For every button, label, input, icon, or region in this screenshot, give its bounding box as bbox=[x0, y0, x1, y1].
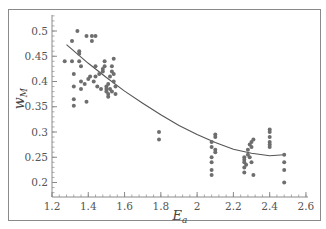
data-point bbox=[108, 75, 112, 79]
data-point bbox=[213, 135, 217, 139]
data-point bbox=[106, 95, 110, 99]
data-point bbox=[94, 64, 98, 68]
data-point bbox=[85, 100, 89, 104]
data-point bbox=[112, 72, 116, 76]
data-point bbox=[210, 160, 214, 164]
data-point bbox=[79, 64, 83, 68]
y-tick-label: 0.45 bbox=[25, 50, 48, 62]
y-tick-label: 0.3 bbox=[31, 126, 48, 138]
data-point bbox=[92, 80, 96, 84]
y-tick-label: 0.5 bbox=[31, 25, 48, 37]
data-point bbox=[79, 80, 83, 84]
data-point bbox=[114, 92, 118, 96]
data-point bbox=[72, 104, 76, 108]
data-point bbox=[94, 75, 98, 79]
data-point bbox=[77, 59, 81, 63]
data-point bbox=[72, 97, 76, 101]
data-point bbox=[94, 34, 98, 38]
data-point bbox=[250, 145, 254, 149]
data-point bbox=[70, 39, 74, 43]
data-point bbox=[95, 85, 99, 89]
data-point bbox=[110, 90, 114, 94]
data-point bbox=[157, 138, 161, 142]
data-point bbox=[99, 87, 103, 91]
data-point bbox=[104, 87, 108, 91]
data-point bbox=[282, 168, 286, 172]
x-tick-label: 1.8 bbox=[152, 200, 169, 212]
data-point bbox=[251, 138, 255, 142]
data-point bbox=[75, 29, 79, 33]
data-point bbox=[97, 72, 101, 76]
data-point bbox=[210, 145, 214, 149]
x-tick-label: 2.2 bbox=[225, 200, 242, 212]
x-tick-label: 2.4 bbox=[261, 200, 278, 212]
data-point bbox=[246, 148, 250, 152]
data-point bbox=[112, 80, 116, 84]
data-point bbox=[63, 59, 67, 63]
data-point bbox=[112, 57, 116, 61]
data-point bbox=[110, 64, 114, 68]
data-point bbox=[210, 173, 214, 177]
data-point bbox=[85, 34, 89, 38]
data-point bbox=[250, 160, 254, 164]
x-tick-label: 1.2 bbox=[44, 200, 61, 212]
data-point bbox=[242, 170, 246, 174]
y-tick-label: 0.35 bbox=[25, 100, 48, 112]
data-point bbox=[248, 155, 252, 159]
data-point bbox=[77, 49, 81, 53]
data-point bbox=[210, 140, 214, 144]
data-point bbox=[210, 155, 214, 159]
y-axis-title: wM bbox=[11, 87, 29, 109]
scatter-chart: 0.20.250.30.350.40.450.51.21.41.61.822.2… bbox=[0, 0, 326, 229]
x-tick-label: 1.6 bbox=[116, 200, 133, 212]
data-point bbox=[282, 160, 286, 164]
data-point bbox=[103, 59, 107, 63]
data-point bbox=[157, 130, 161, 134]
data-point bbox=[282, 181, 286, 185]
data-point bbox=[72, 85, 76, 89]
x-tick-label: 2 bbox=[194, 200, 201, 212]
data-point bbox=[268, 130, 272, 134]
data-point bbox=[282, 153, 286, 157]
y-tick-label: 0.25 bbox=[25, 151, 48, 163]
x-tick-label: 2.6 bbox=[298, 200, 315, 212]
data-point bbox=[210, 168, 214, 172]
data-point bbox=[79, 87, 83, 91]
data-point bbox=[213, 150, 217, 154]
y-tick-label: 0.2 bbox=[31, 176, 48, 188]
data-point bbox=[90, 39, 94, 43]
data-point bbox=[70, 59, 74, 63]
data-point bbox=[268, 145, 272, 149]
x-tick-label: 1.4 bbox=[80, 200, 97, 212]
data-point bbox=[72, 72, 76, 76]
data-point bbox=[88, 75, 92, 79]
data-point bbox=[114, 85, 118, 89]
data-point bbox=[268, 135, 272, 139]
data-point bbox=[251, 173, 255, 177]
data-point bbox=[244, 163, 248, 167]
axis-labels: 0.20.250.30.350.40.450.51.21.41.61.822.2… bbox=[11, 25, 315, 226]
y-tick-label: 0.4 bbox=[31, 75, 48, 87]
data-point bbox=[106, 82, 110, 86]
data-point bbox=[103, 64, 107, 68]
data-points bbox=[63, 29, 287, 185]
data-point bbox=[90, 34, 94, 38]
x-axis-title: Ea bbox=[172, 208, 188, 225]
data-point bbox=[83, 82, 87, 86]
